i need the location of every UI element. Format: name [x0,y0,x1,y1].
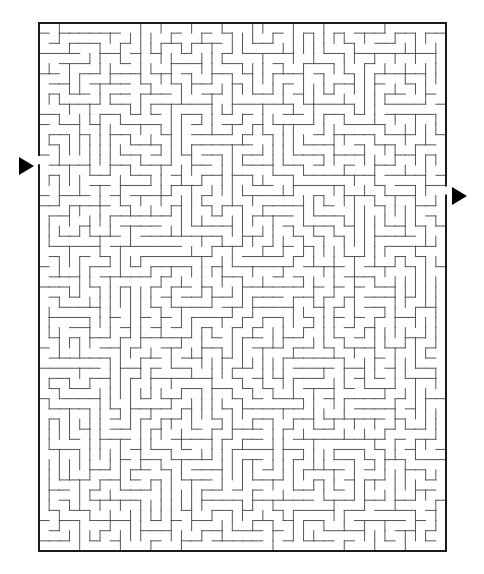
entrance-arrow-icon [19,157,34,175]
maze-board [0,0,484,574]
exit-arrow-icon [452,187,467,205]
